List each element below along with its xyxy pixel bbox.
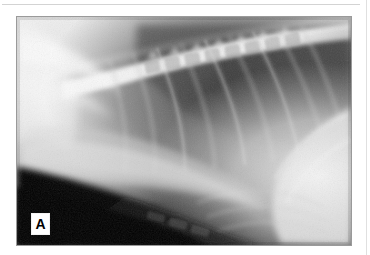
figure-panel-a: A	[16, 16, 352, 246]
radiograph-render	[17, 17, 351, 245]
radiograph-image	[17, 17, 351, 245]
panel-letter-marker: A	[32, 214, 49, 234]
page-rule-right	[366, 0, 367, 255]
page-rule-top	[2, 4, 360, 5]
